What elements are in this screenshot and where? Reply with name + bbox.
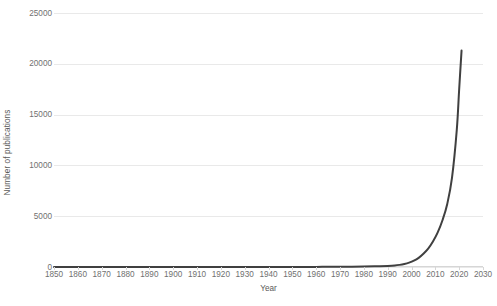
figure-caption [4,299,484,306]
x-tickmark [221,267,222,270]
plot-area [54,13,483,267]
x-tickmark [316,267,317,270]
series-path-publications [54,51,462,267]
x-tick-label: 2030 [466,270,497,280]
y-tick-label: 25000 [18,9,52,18]
y-tick-label: 5000 [18,212,52,221]
x-tickmark [340,267,341,270]
y-tick-label: 20000 [18,59,52,68]
x-tickmark [388,267,389,270]
y-tick-label: 10000 [18,161,52,170]
x-tickmark [78,267,79,270]
series-line-chart [54,13,483,267]
x-tickmark [197,267,198,270]
x-tickmark [173,267,174,270]
y-tick-label: 15000 [18,110,52,119]
x-tickmark [245,267,246,270]
x-tickmark [149,267,150,270]
x-tickmark [269,267,270,270]
x-tickmark [364,267,365,270]
y-axis-title: Number of publications [0,96,16,208]
y-axis-title-label: Number of publications [4,109,13,195]
x-axis-title: Year [54,284,483,293]
x-tickmark [126,267,127,270]
y-axis-tick-labels: 0500010000150002000025000 [18,0,52,306]
x-axis-tick-labels: 1850186018701880189019001910192019301940… [0,270,492,282]
x-tickmark [459,267,460,270]
x-tickmark [435,267,436,270]
x-tickmark [102,267,103,270]
x-tickmark [412,267,413,270]
x-tickmark [483,267,484,270]
x-tickmark [292,267,293,270]
x-tickmark [54,267,55,270]
